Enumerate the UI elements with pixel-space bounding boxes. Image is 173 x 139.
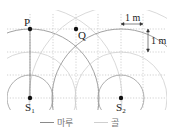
s1-sub: 1 bbox=[31, 107, 35, 115]
point-s1 bbox=[28, 96, 32, 100]
scale-horizontal bbox=[121, 23, 143, 26]
scale-vertical-label: 1 m bbox=[151, 36, 166, 46]
legend-trough-label: 골 bbox=[111, 116, 119, 129]
legend-crest-label: 마루 bbox=[57, 116, 73, 129]
label-s2: S2 bbox=[116, 102, 126, 115]
scale-vertical bbox=[147, 29, 150, 52]
label-s1: S1 bbox=[25, 102, 35, 115]
crest-line-swatch bbox=[40, 122, 54, 123]
label-q: Q bbox=[78, 30, 86, 41]
trough-line-swatch bbox=[94, 122, 108, 123]
legend-crest: 마루 bbox=[40, 116, 73, 129]
point-s2 bbox=[119, 96, 123, 100]
legend-trough: 골 bbox=[94, 116, 119, 129]
s2-sub: 2 bbox=[122, 107, 126, 115]
label-p: P bbox=[24, 17, 30, 28]
scale-horizontal-label: 1 m bbox=[125, 13, 140, 23]
